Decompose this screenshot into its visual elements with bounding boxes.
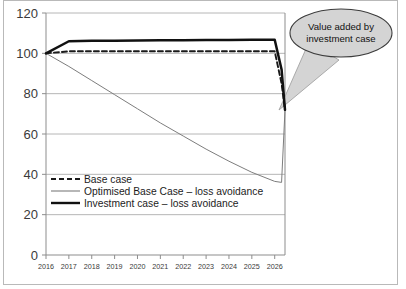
callout-text-line2: investment case bbox=[306, 33, 375, 44]
legend-label-base-case: Base case bbox=[84, 174, 132, 185]
y-tick-label-60: 60 bbox=[24, 127, 38, 142]
x-tick-label-2016: 2016 bbox=[38, 262, 54, 271]
x-tick-label-2018: 2018 bbox=[84, 262, 100, 271]
x-tick-label-2022: 2022 bbox=[175, 262, 191, 271]
y-tick-label-80: 80 bbox=[24, 86, 38, 101]
x-tick-label-2024: 2024 bbox=[221, 262, 237, 271]
y-axis-ticks: 020406080100120 bbox=[16, 6, 46, 263]
chart-screenshot: 020406080100120 201620172018201920202021… bbox=[0, 0, 406, 289]
callout-text-line1: Value added by bbox=[308, 21, 374, 32]
line-chart: 020406080100120 201620172018201920202021… bbox=[0, 0, 406, 289]
callout-bubble: Value added by investment case bbox=[290, 9, 392, 57]
y-tick-label-100: 100 bbox=[16, 46, 38, 61]
x-tick-label-2019: 2019 bbox=[107, 262, 123, 271]
x-tick-label-2026: 2026 bbox=[267, 262, 283, 271]
x-axis-ticks: 2016201720182019202020212022202320242025… bbox=[38, 255, 283, 271]
legend-label-investment-case: Investment case – loss avoidance bbox=[84, 198, 239, 209]
x-tick-label-2020: 2020 bbox=[129, 262, 145, 271]
x-tick-label-2023: 2023 bbox=[198, 262, 214, 271]
x-tick-label-2025: 2025 bbox=[244, 262, 260, 271]
legend-label-optimised-base-case: Optimised Base Case – loss avoidance bbox=[84, 186, 263, 197]
y-tick-label-0: 0 bbox=[31, 248, 38, 263]
y-tick-label-20: 20 bbox=[24, 207, 38, 222]
y-tick-label-120: 120 bbox=[16, 6, 38, 21]
x-tick-label-2021: 2021 bbox=[152, 262, 168, 271]
y-tick-label-40: 40 bbox=[24, 167, 38, 182]
x-tick-label-2017: 2017 bbox=[61, 262, 77, 271]
